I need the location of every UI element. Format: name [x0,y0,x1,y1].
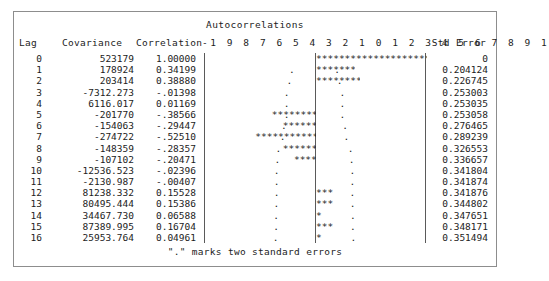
cell-covariance: 178924 [48,64,134,75]
two-standard-error-marker: . [281,120,287,131]
cell-std-error: 0.341876 [422,187,488,198]
correlation-bar-cell: **** [204,154,428,165]
two-standard-error-marker: . [349,165,355,176]
two-standard-error-marker: . [286,75,292,86]
cell-std-error: 0.341804 [422,165,488,176]
two-standard-error-marker: . [273,210,279,221]
cell-covariance: 81238.332 [48,187,134,198]
correlation-bar-positive: *** [316,187,333,198]
table-row: 1380495.4440.153860.344802***.. [14,198,496,209]
table-row: 46116.0170.011690.253035.. [14,98,496,109]
cell-correlation: 0.01169 [140,98,196,109]
correlation-bar-cell [204,98,428,109]
column-header-std-error: Std Error [432,37,486,48]
table-row: 8-148359-.283570.326553******.. [14,143,496,154]
cell-std-error: 0.226745 [422,75,488,86]
column-header-lag: Lag [19,37,37,48]
correlation-bar-cell: ******* [204,64,428,75]
correlation-bar-cell: *********** [204,131,428,142]
cell-lag: 6 [14,120,42,131]
autocorrelation-output-panel: Autocorrelations Lag Covariance Correlat… [13,11,497,267]
cell-correlation: 0.38880 [140,75,196,86]
correlation-bar-cell: *** [204,221,428,232]
table-row: 1587389.9950.167040.348171***.. [14,221,496,232]
correlation-bar-cell: *** [204,187,428,198]
correlation-bar-cell [204,165,428,176]
two-standard-error-marker: . [350,221,356,232]
cell-lag: 1 [14,64,42,75]
cell-std-error: 0.341874 [422,176,488,187]
cell-correlation: -.38566 [140,109,196,120]
correlation-axis-scale: -1 9 8 7 6 5 4 3 2 1 0 1 2 3 4 5 6 7 8 9… [202,37,549,48]
two-standard-error-marker: . [274,165,280,176]
cell-covariance: -154063 [48,120,134,131]
cell-std-error: 0.276465 [422,120,488,131]
table-row: 3-7312.273-.013980.253003.. [14,87,496,98]
correlation-bar-negative: **** [294,154,316,165]
cell-lag: 14 [14,210,42,221]
cell-covariance: 25953.764 [48,232,134,243]
two-standard-error-marker: . [275,143,281,154]
two-standard-error-marker: . [280,131,286,142]
column-header-correlation: Correlation [136,37,202,48]
correlation-bar-negative: ****** [283,120,316,131]
autocorrelation-table-body: 05231791.000000********************11789… [14,53,496,243]
correlation-bar-negative: ****** [283,143,316,154]
cell-covariance: 523179 [48,53,134,64]
two-standard-error-marker: . [284,98,290,109]
cell-std-error: 0 [422,53,488,64]
correlation-bar-cell: ******** [204,109,428,120]
cell-lag: 7 [14,131,42,142]
two-standard-error-marker: . [349,176,355,187]
correlation-bar-cell [204,176,428,187]
two-standard-error-marker: . [349,187,355,198]
cell-std-error: 0.289239 [422,131,488,142]
table-row: 7-274722-.525100.289239***********.. [14,131,496,142]
cell-covariance: -2130.987 [48,176,134,187]
cell-covariance: -274722 [48,131,134,142]
cell-std-error: 0.326553 [422,143,488,154]
two-standard-error-marker: . [348,143,354,154]
cell-lag: 5 [14,109,42,120]
correlation-bar-negative: ******** [272,109,316,120]
cell-std-error: 0.253003 [422,87,488,98]
cell-correlation: -.52510 [140,131,196,142]
cell-correlation: 0.06588 [140,210,196,221]
cell-correlation: -.00407 [140,176,196,187]
cell-lag: 9 [14,154,42,165]
cell-std-error: 0.344802 [422,198,488,209]
column-header-covariance: Covariance [62,37,122,48]
cell-covariance: -7312.273 [48,87,134,98]
cell-std-error: 0.348171 [422,221,488,232]
correlation-bar-cell: *** [204,198,428,209]
correlation-bar-cell [204,87,428,98]
cell-correlation: 0.15386 [140,198,196,209]
cell-correlation: -.29447 [140,120,196,131]
cell-lag: 16 [14,232,42,243]
cell-lag: 3 [14,87,42,98]
table-row: 1281238.3320.155280.341876***.. [14,187,496,198]
correlation-bar-cell: * [204,210,428,221]
two-standard-error-marker: . [350,210,356,221]
correlation-bar-positive: *** [316,221,333,232]
cell-covariance: 34467.730 [48,210,134,221]
two-standard-error-marker: . [274,176,280,187]
cell-correlation: 0.16704 [140,221,196,232]
cell-std-error: 0.204124 [422,64,488,75]
cell-std-error: 0.347651 [422,210,488,221]
cell-lag: 8 [14,143,42,154]
cell-covariance: 80495.444 [48,198,134,209]
two-standard-error-marker: . [273,221,279,232]
correlation-bar-positive: * [316,232,322,243]
cell-lag: 10 [14,165,42,176]
two-standard-error-marker: . [273,232,279,243]
table-row: 11-2130.987-.004070.341874.. [14,176,496,187]
two-standard-error-marker: . [334,64,340,75]
cell-std-error: 0.351494 [422,232,488,243]
cell-correlation: 0.15528 [140,187,196,198]
cell-lag: 11 [14,176,42,187]
cell-lag: 2 [14,75,42,86]
page-title: Autocorrelations [14,19,496,30]
two-standard-error-marker: . [273,198,279,209]
cell-correlation: 0.34199 [140,64,196,75]
